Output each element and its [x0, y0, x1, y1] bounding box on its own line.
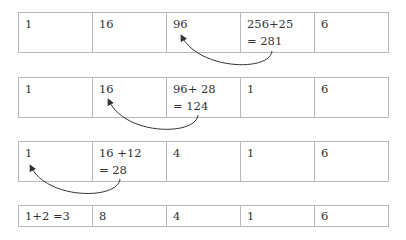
cell: 6 — [315, 13, 389, 53]
cell: 256+25 = 281 — [241, 13, 315, 53]
cell: 6 — [315, 206, 389, 227]
step-4-table: 1+2 =3 8 4 1 6 — [18, 205, 389, 227]
cell: 8 — [93, 206, 167, 227]
step-3-table: 1 16 +12 = 28 4 1 6 — [18, 141, 389, 182]
cell: 96+ 28 = 124 — [167, 78, 241, 118]
cell: 6 — [315, 78, 389, 118]
cell: 1 — [19, 13, 93, 53]
cell: 1 — [241, 78, 315, 118]
cell: 16 — [93, 13, 167, 53]
step-2-table: 1 16 96+ 28 = 124 1 6 — [18, 77, 389, 118]
cell: 1+2 =3 — [19, 206, 93, 227]
cell: 6 — [315, 142, 389, 182]
cell: 4 — [167, 206, 241, 227]
cell: 4 — [167, 142, 241, 182]
cell: 1 — [19, 142, 93, 182]
cell: 1 — [241, 142, 315, 182]
cell: 1 — [19, 78, 93, 118]
cell: 1 — [241, 206, 315, 227]
cell: 16 +12 = 28 — [93, 142, 167, 182]
cell: 16 — [93, 78, 167, 118]
step-1-table: 1 16 96 256+25 = 281 6 — [18, 12, 389, 53]
cell: 96 — [167, 13, 241, 53]
